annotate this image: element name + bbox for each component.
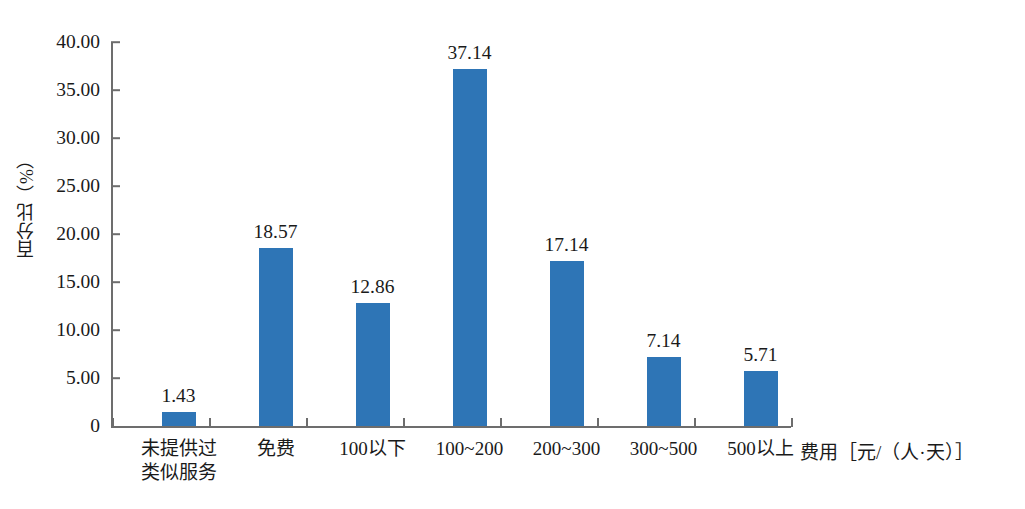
bar-group: 37.14 <box>421 42 518 426</box>
bar <box>744 371 778 426</box>
y-axis-tick-label: 30.00 <box>0 127 112 149</box>
y-axis-tick-label: 10.00 <box>0 319 112 341</box>
y-axis-tick-label: 20.00 <box>0 223 112 245</box>
y-axis-tick-label: 0 <box>0 415 112 437</box>
x-axis-category-label: 免费 <box>257 437 295 461</box>
y-axis-tick-label: 25.00 <box>0 175 112 197</box>
bar-group: 18.57 <box>227 42 324 426</box>
bar-value-label: 1.43 <box>161 385 195 407</box>
bar <box>647 357 681 426</box>
y-axis-tick-label: 5.00 <box>0 367 112 389</box>
x-axis-category-label: 500以上 <box>727 437 794 461</box>
bar-group: 17.14 <box>518 42 615 426</box>
bar-value-label: 12.86 <box>351 276 395 298</box>
x-axis-category-label: 100~200 <box>436 437 503 461</box>
bar-value-label: 37.14 <box>448 42 492 64</box>
bar-value-label: 5.71 <box>743 344 777 366</box>
bar-chart: 百分比（%） 05.0010.0015.0020.0025.0030.0035.… <box>0 0 1025 509</box>
bar <box>259 248 293 426</box>
bar-group: 7.14 <box>615 42 712 426</box>
bar-group: 12.86 <box>324 42 421 426</box>
x-axis-category-label: 200~300 <box>533 437 600 461</box>
bar <box>453 69 487 426</box>
x-axis-category-label: 100以下 <box>339 437 406 461</box>
x-axis-category-label: 未提供过 类似服务 <box>141 437 217 486</box>
y-axis-tick-label: 35.00 <box>0 79 112 101</box>
bar <box>356 303 390 426</box>
bar-value-label: 17.14 <box>545 234 589 256</box>
bar <box>162 412 196 426</box>
y-axis-tick-label: 15.00 <box>0 271 112 293</box>
bar-value-label: 7.14 <box>646 330 680 352</box>
bar <box>550 261 584 426</box>
plot-area: 1.4318.5712.8637.1417.147.145.71 <box>112 42 791 426</box>
bar-group: 5.71 <box>712 42 809 426</box>
x-axis-title: 费用［元/（人·天）］ <box>800 437 974 464</box>
bar-group: 1.43 <box>130 42 227 426</box>
x-axis-category-label: 300~500 <box>630 437 697 461</box>
x-axis-line <box>111 426 791 428</box>
y-axis-tick-label: 40.00 <box>0 31 112 53</box>
bar-value-label: 18.57 <box>254 221 298 243</box>
